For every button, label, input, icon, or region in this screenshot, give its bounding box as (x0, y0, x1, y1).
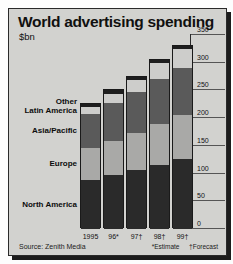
gridline (191, 62, 225, 63)
bar-96 (103, 89, 124, 228)
bar-segment (173, 115, 192, 159)
y-tick-label: 150 (197, 137, 209, 144)
bar-98 (149, 59, 170, 228)
bar-segment (104, 94, 123, 103)
y-tick-label: 300 (197, 54, 209, 61)
gridline (191, 173, 225, 174)
bar-segment (150, 124, 169, 165)
footnotes: *Estimate †Forecast (152, 243, 218, 250)
bar-segment (81, 114, 100, 148)
plot-area: 050100150200250300350 199596*97†98†99† O… (9, 9, 228, 257)
bar-segment (81, 180, 100, 229)
bar-segment (104, 103, 123, 141)
bar-segment (127, 170, 146, 229)
chart-panel: World advertising spending $bn 050100150… (8, 8, 227, 256)
bar-97 (126, 76, 147, 228)
category-label-NorthAmerica: North America (22, 200, 77, 209)
source-note: Source: Zenith Media (19, 243, 86, 250)
estimate-note: *Estimate (152, 243, 180, 250)
y-tick-label: 0 (197, 220, 201, 227)
category-label-group: OtherLatin AmericaAsia/PacificEuropeNort… (9, 9, 77, 257)
bar-segment (150, 165, 169, 229)
y-tick-label: 100 (197, 165, 209, 172)
bar-segment (173, 68, 192, 116)
category-label-Europe: Europe (49, 159, 77, 168)
y-tick-label: 200 (197, 109, 209, 116)
bar-segment (127, 80, 146, 92)
gridline (191, 228, 225, 229)
y-tick-label: 350 (197, 26, 209, 33)
chart-figure: World advertising spending $bn 050100150… (0, 0, 233, 264)
bar-segment (81, 148, 100, 180)
category-label-Other: Other (56, 97, 77, 106)
x-tick-label: 99† (167, 233, 198, 240)
category-label-AsiaPacific: Asia/Pacific (32, 126, 77, 135)
bar-segment (104, 175, 123, 229)
bar-segment (173, 159, 192, 229)
gridline (191, 117, 225, 118)
bar-segment (173, 49, 192, 67)
bar-1995 (80, 103, 101, 228)
gridline (191, 89, 225, 90)
gridline (191, 145, 225, 146)
bar-99 (172, 45, 193, 228)
gridline (191, 200, 225, 201)
bar-segment (127, 92, 146, 132)
forecast-note: †Forecast (189, 243, 218, 250)
bar-segment (150, 79, 169, 123)
bar-segment (127, 133, 146, 171)
y-tick-label: 50 (197, 192, 205, 199)
bar-segment (81, 107, 100, 114)
y-tick-label: 250 (197, 81, 209, 88)
bar-segment (104, 141, 123, 175)
gridline (191, 34, 225, 35)
bar-segment (150, 63, 169, 79)
category-label-LatinAmerica: Latin America (24, 106, 77, 115)
